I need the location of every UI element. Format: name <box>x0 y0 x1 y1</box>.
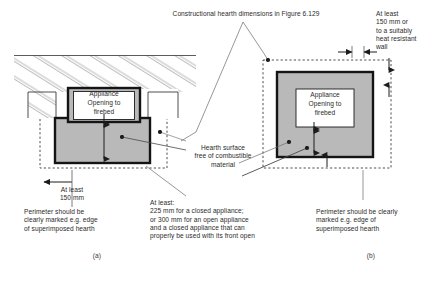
appliance-opening-label-a: Appliance Opening to firebed <box>73 89 135 116</box>
hearth-surface-note: Hearth surface free of combustible mater… <box>177 144 269 169</box>
at-least-dimensions-note: At least: 225 mm for a closed appliance;… <box>150 199 310 240</box>
leader-constructional-note-b <box>243 22 268 60</box>
panel-b-drawing <box>181 22 391 200</box>
constructional-hearth-note: Constructional hearth dimensions in Figu… <box>148 10 344 18</box>
leader-perimeter-dot-a <box>160 132 186 141</box>
hearth-slab-a <box>55 118 150 163</box>
hearth-dimensions-figure: Constructional hearth dimensions in Figu… <box>0 0 440 286</box>
dim-top-horizontal-b <box>338 46 377 58</box>
figure-svg <box>0 0 440 286</box>
leader-at-least-a <box>146 166 186 196</box>
perimeter-note-left: Perimeter should be clearly marked e.g. … <box>24 208 146 233</box>
at-least-150-wall-note: At least 150 mm or to a suitably heat re… <box>376 10 440 51</box>
panel-caption-a: (a) <box>82 252 112 260</box>
panel-a-drawing <box>12 53 200 207</box>
perimeter-note-right: Perimeter should be clearly marked e.g. … <box>316 208 440 233</box>
appliance-opening-label-b: Appliance Opening to firebed <box>296 90 354 117</box>
panel-caption-b: (b) <box>356 252 386 260</box>
at-least-150-note: At least 150 mm <box>36 186 108 203</box>
